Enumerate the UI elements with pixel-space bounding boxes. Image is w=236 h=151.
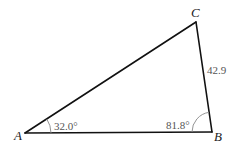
vertex-label-b: B bbox=[214, 129, 222, 144]
angle-label-b: 81.8° bbox=[166, 119, 190, 131]
side-label-bc: 42.9 bbox=[207, 64, 227, 76]
side-ab bbox=[25, 132, 212, 133]
side-ca bbox=[25, 22, 196, 133]
side-bc bbox=[196, 22, 212, 132]
vertex-label-a: A bbox=[13, 128, 22, 143]
angle-arc-a bbox=[47, 119, 51, 133]
triangle-diagram: A B C 32.0° 81.8° 42.9 bbox=[0, 0, 236, 151]
angle-arc-b bbox=[192, 112, 209, 132]
angle-label-a: 32.0° bbox=[54, 120, 78, 132]
vertex-label-c: C bbox=[191, 5, 200, 20]
